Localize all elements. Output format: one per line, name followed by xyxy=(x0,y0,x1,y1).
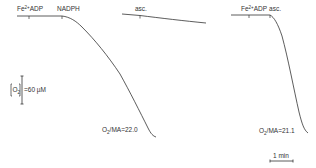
trace-1-addition-nadph: NADPH xyxy=(57,5,80,12)
trace-2-curve xyxy=(122,14,206,23)
trace-3-addition-fe-adp-asc: Fe2+ADPasc. xyxy=(241,5,281,13)
o2-scale-bar: O2 =60 µM xyxy=(11,76,46,104)
time-scale-bar: 1 min xyxy=(270,152,293,163)
trace-3-curve xyxy=(231,15,308,133)
trace-2-addition-asc: asc. xyxy=(135,5,147,12)
trace-1-curve xyxy=(17,16,156,137)
trace-1-ratio-annotation: O2/MA=22.0 xyxy=(102,126,138,135)
o2-scale-label: O2 xyxy=(13,86,21,95)
oxygen-consumption-figure: Fe2+ADP NADPH asc. Fe2+ADPasc. O2 =60 µM… xyxy=(0,0,316,168)
o2-scale-value: =60 µM xyxy=(24,86,46,94)
trace-3-ratio-annotation: O2/MA=21.1 xyxy=(259,127,295,136)
time-scale-label: 1 min xyxy=(273,152,289,159)
trace-1-addition-fe-adp: Fe2+ADP xyxy=(17,5,43,13)
